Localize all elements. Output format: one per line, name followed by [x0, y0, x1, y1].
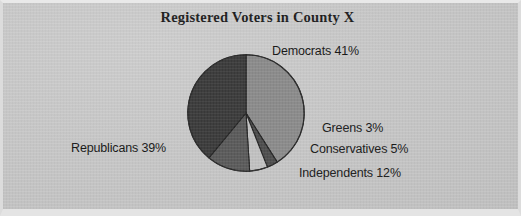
pie-label-democrats: Democrats 41% [272, 44, 359, 58]
chart-title: Registered Voters in County X [0, 9, 515, 26]
pie-label-republicans: Republicans 39% [71, 141, 166, 155]
pie-label-independents: Independents 12% [299, 166, 401, 180]
pie-chart: Democrats 41%Greens 3%Conservatives 5%In… [184, 51, 308, 175]
pie-slice-group: Democrats 41%Greens 3%Conservatives 5%In… [188, 55, 304, 171]
pie-chart-svg: Democrats 41%Greens 3%Conservatives 5%In… [184, 51, 308, 175]
pie-label-greens: Greens 3% [322, 121, 383, 135]
pie-label-conservatives: Conservatives 5% [310, 142, 408, 156]
scanned-chart-figure: Registered Voters in County X Democrats … [0, 0, 521, 216]
